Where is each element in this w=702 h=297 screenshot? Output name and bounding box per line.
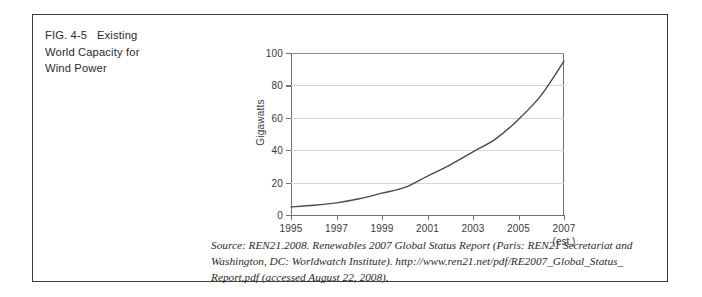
figure-caption-line-3: Wind Power (45, 60, 205, 77)
x-tick-label-2005: 2005 (507, 223, 530, 234)
x-tick-label-2001: 2001 (416, 223, 439, 234)
y-tick-label-0: 0 (277, 210, 283, 221)
y-tick-label-100: 100 (266, 48, 283, 59)
figure-caption-line-2: World Capacity for (45, 44, 205, 61)
figure-caption: FIG. 4-5 Existing World Capacity for Win… (45, 27, 205, 77)
x-tick-label-2003: 2003 (461, 223, 484, 234)
x-tick-1997 (337, 215, 338, 220)
source-note-line-2: Washington, DC: Worldwatch Institute). h… (211, 253, 651, 269)
x-tick-2001 (428, 215, 429, 220)
x-tick-label-1995: 1995 (279, 223, 302, 234)
source-note-line-1: Source: REN21.2008. Renewables 2007 Glob… (211, 237, 651, 253)
y-tick-label-60: 60 (271, 112, 283, 123)
y-tick-label-40: 40 (271, 145, 283, 156)
y-axis-title: Gigawatts (255, 88, 266, 158)
y-tick-label-80: 80 (271, 80, 283, 91)
line-chart: Gigawatts 020406080100 19951997199920012… (228, 31, 628, 231)
x-tick-2007 (564, 215, 565, 220)
y-tick-label-20: 20 (271, 177, 283, 188)
source-note: Source: REN21.2008. Renewables 2007 Glob… (211, 237, 651, 285)
x-tick-2003 (473, 215, 474, 220)
series-line (291, 53, 564, 215)
plot-area: 020406080100 199519971999200120032005200… (291, 53, 564, 215)
x-tick-label-2007: 2007 (552, 223, 575, 234)
x-tick-2005 (519, 215, 520, 220)
figure-container: FIG. 4-5 Existing World Capacity for Win… (32, 14, 668, 282)
source-note-line-3: Report.pdf (accessed August 22, 2008). (211, 269, 651, 285)
x-tick-label-1997: 1997 (325, 223, 348, 234)
series-path (291, 61, 564, 207)
x-tick-label-1999: 1999 (370, 223, 393, 234)
figure-caption-line-1: FIG. 4-5 Existing (45, 27, 205, 44)
x-tick-1999 (382, 215, 383, 220)
x-tick-1995 (291, 215, 292, 220)
